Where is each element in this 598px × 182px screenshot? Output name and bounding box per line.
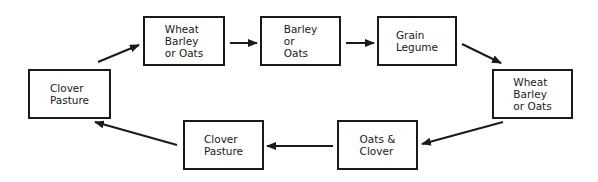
node-label: Grain Legume <box>396 29 438 53</box>
node-wheat-barley-oats-right: Wheat Barley or Oats <box>492 69 573 119</box>
node-clover-pasture-left: Clover Pasture <box>28 69 111 119</box>
node-barley-or-oats: Barley or Oats <box>260 16 341 66</box>
node-label: Wheat Barley or Oats <box>513 76 551 112</box>
node-grain-legume: Grain Legume <box>377 16 457 66</box>
node-label: Clover Pasture <box>204 133 243 157</box>
arrow-n3-to-n4 <box>462 44 501 63</box>
node-label: Oats & Clover <box>360 133 396 157</box>
arrow-n7-to-n1 <box>98 45 139 62</box>
node-wheat-barley-oats-top: Wheat Barley or Oats <box>143 16 225 66</box>
node-clover-pasture-bottom: Clover Pasture <box>183 120 264 170</box>
arrow-n4-to-n5 <box>422 122 503 144</box>
node-label: Clover Pasture <box>50 82 89 106</box>
node-oats-and-clover: Oats & Clover <box>337 120 418 170</box>
node-label: Barley or Oats <box>284 23 318 59</box>
crop-rotation-diagram: Wheat Barley or Oats Barley or Oats Grai… <box>0 0 598 182</box>
node-label: Wheat Barley or Oats <box>165 23 203 59</box>
arrow-n6-to-n7 <box>95 122 177 145</box>
